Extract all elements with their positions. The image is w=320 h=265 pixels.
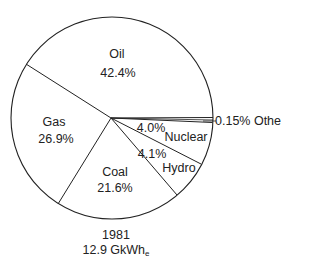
label-gas-pct: 26.9% — [38, 132, 73, 146]
label-oil-pct: 42.4% — [100, 66, 135, 80]
label-hydro-pct: 4.1% — [138, 147, 167, 161]
label-coal-name: Coal — [102, 165, 128, 179]
chart-caption: 1981 12.9 GkWhe — [83, 228, 150, 261]
label-nuclear-pct: 4.0% — [137, 121, 166, 135]
label-nuclear-name: Nuclear — [164, 130, 207, 144]
caption-total-subscript: e — [145, 249, 149, 258]
label-oil-name: Oil — [109, 47, 124, 61]
label-coal-pct: 21.6% — [97, 181, 132, 195]
caption-total: 12.9 GkWhe — [83, 243, 150, 261]
label-gas-name: Gas — [43, 115, 66, 129]
caption-total-value: 12.9 GkWh — [83, 243, 146, 257]
label-other: 0.15% Other — [215, 114, 281, 128]
label-hydro-name: Hydro — [162, 161, 195, 175]
caption-year: 1981 — [83, 228, 150, 243]
